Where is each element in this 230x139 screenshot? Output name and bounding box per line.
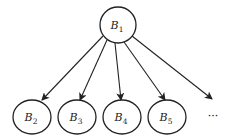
node-b1: B1: [100, 7, 136, 43]
node-b4: B4: [103, 100, 141, 134]
edges-group: [42, 36, 212, 100]
nodes-group: B1B2B3B4B5: [13, 7, 186, 134]
tree-diagram: B1B2B3B4B5 ···: [0, 0, 230, 139]
node-b5: B5: [148, 100, 186, 134]
edge-b1-to-b5: [124, 42, 165, 100]
edge-b1-to-b4: [115, 43, 121, 100]
more-children-ellipsis: ···: [208, 110, 219, 123]
edge-b1-to-b3: [80, 40, 107, 100]
node-b2: B2: [13, 100, 51, 134]
node-b3: B3: [58, 100, 96, 134]
edge-b1-to-ellipsis: [132, 36, 212, 99]
